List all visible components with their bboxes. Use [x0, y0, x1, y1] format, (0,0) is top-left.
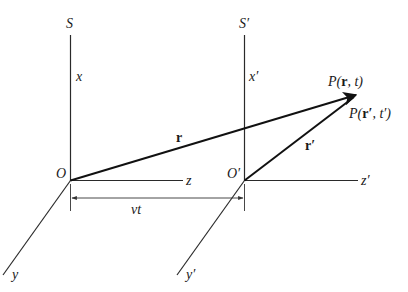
origin-o-prime-label: O′ [227, 166, 241, 181]
vector-r-label: r [176, 130, 182, 145]
frame-s: S x z y O [3, 16, 192, 282]
frame-s-prime-label: S′ [239, 16, 250, 31]
point-p-unprimed-label: P(r, t) [327, 74, 363, 90]
galilean-frames-diagram: S x z y O S′ x′ z′ y′ O′ vt r r′ P(r, t)… [0, 0, 408, 292]
point-p-primed-label: P(r′, t′) [348, 106, 391, 122]
point-p: P(r, t) P(r′, t′) [327, 74, 391, 122]
displacement-vt: vt [71, 184, 245, 217]
vector-r-prime [245, 97, 355, 181]
s-y-axis [3, 181, 71, 276]
vector-r-prime-label: r′ [305, 138, 315, 153]
s-prime-y-axis-label: y′ [184, 267, 196, 282]
position-vectors: r r′ [71, 95, 357, 181]
origin-o-label: O [56, 166, 66, 181]
s-x-axis-label: x [75, 69, 83, 84]
s-prime-y-axis [177, 181, 245, 276]
s-prime-x-axis-label: x′ [248, 69, 259, 84]
frame-s-label: S [66, 16, 73, 31]
s-y-axis-label: y [10, 267, 19, 282]
s-z-axis-label: z [185, 173, 192, 188]
frame-s-prime: S′ x′ z′ y′ O′ [177, 16, 370, 282]
s-prime-z-axis-label: z′ [360, 173, 370, 188]
vt-label: vt [131, 202, 142, 217]
